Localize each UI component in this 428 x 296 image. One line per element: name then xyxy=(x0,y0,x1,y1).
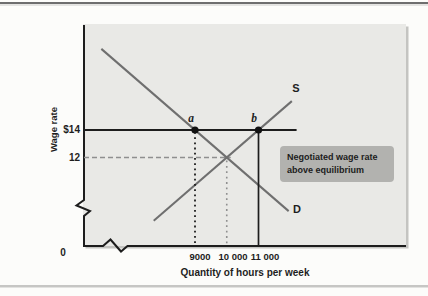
point-a-label: a xyxy=(184,112,198,124)
point-b-dot xyxy=(255,126,262,133)
x-axis-title: Quantity of hours per week xyxy=(133,267,357,278)
y-axis-line xyxy=(77,25,91,246)
origin-label: 0 xyxy=(57,247,69,258)
y-tick-12: 12 xyxy=(54,152,80,163)
y-tick-14: $14 xyxy=(54,124,80,135)
supply-curve xyxy=(154,101,292,221)
figure-container: Wage rate $14 12 0 9000 10 000 11 000 Qu… xyxy=(0,0,428,296)
x-axis-line xyxy=(83,240,406,252)
point-a-dot xyxy=(191,126,198,133)
supply-curve-label: S xyxy=(289,82,303,94)
point-b-label: b xyxy=(247,112,261,124)
annotation-line-1: Negotiated wage rate xyxy=(287,151,387,164)
annotation-callout: Negotiated wage rate above equilibrium xyxy=(280,146,394,182)
annotation-line-2: above equilibrium xyxy=(287,164,387,177)
demand-curve-label: D xyxy=(290,203,304,215)
x-tick-11000: 11 000 xyxy=(240,252,290,262)
